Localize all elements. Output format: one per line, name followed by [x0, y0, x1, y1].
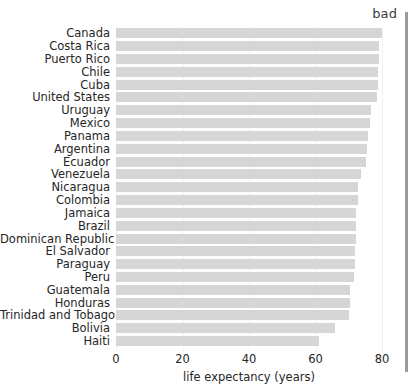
- bar: [116, 259, 355, 269]
- bar-row: Argentina: [0, 142, 419, 155]
- category-label: Chile: [0, 66, 110, 78]
- bar: [116, 208, 356, 218]
- bar-row: Chile: [0, 65, 419, 78]
- bar-row: Dominican Republic: [0, 232, 419, 245]
- category-label: Honduras: [0, 297, 110, 309]
- bar-row: Brazil: [0, 219, 419, 232]
- bar-row: Nicaragua: [0, 181, 419, 194]
- category-label: Cuba: [0, 79, 110, 91]
- bar: [116, 285, 350, 295]
- category-label: Jamaica: [0, 207, 110, 219]
- bar: [116, 144, 367, 154]
- bar: [116, 234, 356, 244]
- bar: [116, 105, 371, 115]
- bar: [116, 92, 377, 102]
- bar: [116, 195, 358, 205]
- bar: [116, 80, 378, 90]
- bar: [116, 67, 378, 77]
- category-label: Venezuela: [0, 168, 110, 180]
- x-axis-title: life expectancy (years): [183, 370, 315, 384]
- category-label: Bolivia: [0, 322, 110, 334]
- bar: [116, 169, 361, 179]
- x-tick-label: 20: [175, 352, 190, 366]
- bar-row: United States: [0, 91, 419, 104]
- bar: [116, 246, 355, 256]
- plot-area: CanadaCosta RicaPuerto RicoChileCubaUnit…: [0, 0, 419, 390]
- bar-row: Canada: [0, 27, 419, 40]
- bar-row: Guatemala: [0, 283, 419, 296]
- category-label: Argentina: [0, 143, 110, 155]
- category-label: Dominican Republic: [0, 233, 110, 245]
- category-label: El Salvador: [0, 245, 110, 257]
- bar: [116, 157, 366, 167]
- bar-row: Cuba: [0, 78, 419, 91]
- bar: [116, 131, 368, 141]
- bar-row: Panama: [0, 130, 419, 143]
- bar-row: El Salvador: [0, 245, 419, 258]
- bar-row: Haiti: [0, 335, 419, 348]
- category-label: Nicaragua: [0, 181, 110, 193]
- category-label: Paraguay: [0, 258, 110, 270]
- bar: [116, 298, 350, 308]
- bar-row: Peru: [0, 271, 419, 284]
- life-expectancy-bar-chart: bad CanadaCosta RicaPuerto RicoChileCuba…: [0, 0, 419, 390]
- bar: [116, 221, 356, 231]
- category-label: Trinidad and Tobago: [0, 309, 110, 321]
- category-label: United States: [0, 91, 110, 103]
- bar-row: Jamaica: [0, 206, 419, 219]
- category-label: Colombia: [0, 194, 110, 206]
- bar-row: Ecuador: [0, 155, 419, 168]
- bar-row: Bolivia: [0, 322, 419, 335]
- bar-row: Puerto Rico: [0, 53, 419, 66]
- category-label: Brazil: [0, 220, 110, 232]
- x-tick-label: 0: [112, 352, 119, 366]
- category-label: Haiti: [0, 335, 110, 347]
- bar: [116, 336, 319, 346]
- bar-row: Trinidad and Tobago: [0, 309, 419, 322]
- x-tick-label: 40: [242, 352, 257, 366]
- bar-row: Venezuela: [0, 168, 419, 181]
- bar-row: Colombia: [0, 194, 419, 207]
- x-tick-label: 80: [375, 352, 390, 366]
- bar: [116, 54, 379, 64]
- bar-row: Costa Rica: [0, 40, 419, 53]
- bar: [116, 28, 382, 38]
- bar: [116, 182, 358, 192]
- category-label: Costa Rica: [0, 40, 110, 52]
- category-label: Peru: [0, 271, 110, 283]
- bar-row: Honduras: [0, 296, 419, 309]
- category-label: Panama: [0, 130, 110, 142]
- bar-row: Paraguay: [0, 258, 419, 271]
- bar-row: Mexico: [0, 117, 419, 130]
- category-label: Guatemala: [0, 284, 110, 296]
- category-label: Puerto Rico: [0, 53, 110, 65]
- bar: [116, 118, 370, 128]
- bar: [116, 272, 354, 282]
- category-label: Uruguay: [0, 104, 110, 116]
- category-label: Ecuador: [0, 156, 110, 168]
- category-label: Canada: [0, 27, 110, 39]
- bar-row: Uruguay: [0, 104, 419, 117]
- bar: [116, 323, 335, 333]
- x-tick-label: 60: [308, 352, 323, 366]
- x-axis: life expectancy (years) 020406080: [0, 352, 419, 390]
- bar: [116, 41, 379, 51]
- category-label: Mexico: [0, 117, 110, 129]
- bar: [116, 310, 349, 320]
